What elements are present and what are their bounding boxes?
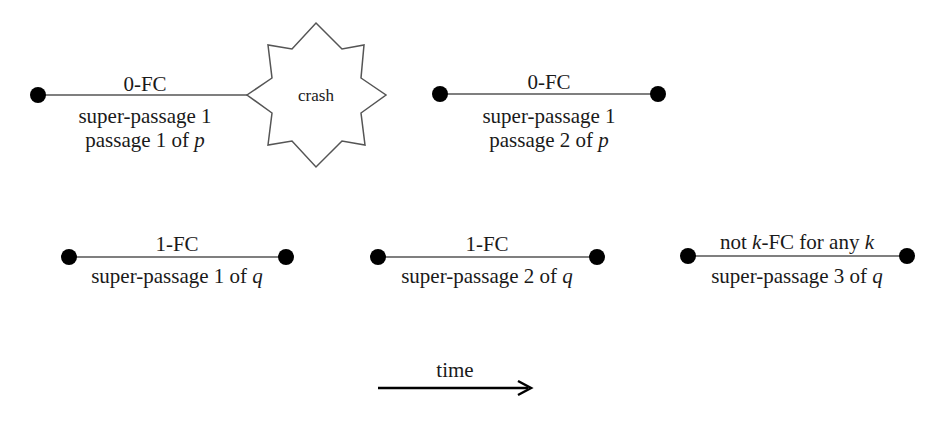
endpoint-dot: [899, 248, 915, 264]
process-var: q: [252, 264, 263, 288]
endpoint-dot: [432, 86, 448, 102]
label-text: super-passage 2 of: [401, 264, 562, 288]
label-text: -FC for any: [761, 230, 864, 254]
label-above: 0-FC: [527, 70, 570, 94]
crash-label: crash: [298, 84, 334, 108]
label-below: super-passage 1 of q: [91, 264, 263, 288]
label-above: 1-FC: [465, 232, 508, 256]
time-label: time: [436, 358, 473, 382]
label-text: not: [720, 230, 752, 254]
endpoint-dot: [30, 87, 46, 103]
process-var: q: [872, 264, 883, 288]
label-below: super-passage 1: [482, 104, 615, 128]
label-below: super-passage 3 of q: [711, 264, 883, 288]
endpoint-dot: [589, 249, 605, 265]
label-text: passage 1 of: [85, 128, 194, 152]
endpoint-dot: [680, 248, 696, 264]
endpoint-dot: [650, 86, 666, 102]
label-below: super-passage 2 of q: [401, 264, 573, 288]
label-text: passage 2 of: [489, 128, 598, 152]
process-var: p: [598, 128, 609, 152]
label-below: passage 2 of p: [489, 128, 609, 152]
process-var: p: [194, 128, 205, 152]
label-text: super-passage 1 of: [91, 264, 252, 288]
label-above: 0-FC: [123, 72, 166, 96]
label-below: super-passage 1: [78, 104, 211, 128]
label-above: 1-FC: [155, 232, 198, 256]
k-var: k: [865, 230, 874, 254]
endpoint-dot: [278, 249, 294, 265]
process-var: q: [562, 264, 573, 288]
label-text: super-passage 3 of: [711, 264, 872, 288]
label-below: passage 1 of p: [85, 128, 205, 152]
endpoint-dot: [370, 249, 386, 265]
label-above: not k-FC for any k: [720, 230, 874, 254]
endpoint-dot: [61, 249, 77, 265]
